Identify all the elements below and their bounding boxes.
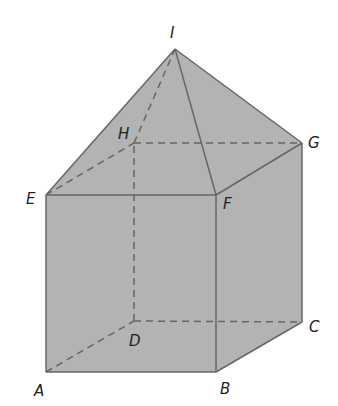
label-F: F xyxy=(223,195,232,213)
label-C: C xyxy=(309,318,320,336)
label-D: D xyxy=(129,332,141,350)
label-H: H xyxy=(118,125,129,143)
label-B: B xyxy=(220,380,230,398)
geometry-diagram: A B C D E F G H I xyxy=(0,0,338,406)
label-A: A xyxy=(33,382,44,400)
solid-fill xyxy=(46,49,302,372)
label-E: E xyxy=(26,190,36,208)
label-G: G xyxy=(308,134,320,152)
label-I: I xyxy=(170,24,175,42)
